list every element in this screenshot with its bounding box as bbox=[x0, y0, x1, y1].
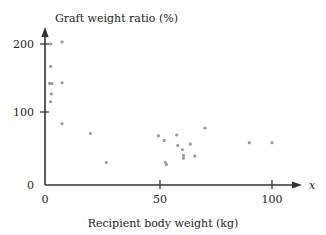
data-point bbox=[50, 82, 53, 85]
data-point bbox=[49, 43, 52, 46]
data-point bbox=[61, 81, 64, 84]
data-point bbox=[165, 163, 168, 166]
data-point bbox=[176, 144, 179, 147]
data-point bbox=[182, 157, 185, 160]
data-point bbox=[182, 154, 185, 157]
data-point bbox=[49, 100, 52, 103]
x-axis-variable-label: x bbox=[309, 179, 316, 192]
plot-canvas: 200 100 0 0 50 100 Graft weight ratio (%… bbox=[0, 0, 326, 235]
data-point bbox=[181, 148, 184, 151]
y-tick-label-100: 100 bbox=[13, 106, 34, 119]
data-point bbox=[50, 93, 53, 96]
scatter-plot-figure: 200 100 0 0 50 100 Graft weight ratio (%… bbox=[0, 0, 326, 235]
data-point bbox=[271, 141, 274, 144]
data-point bbox=[105, 161, 108, 164]
x-tick-label-100: 100 bbox=[262, 193, 283, 206]
y-tick-label-200: 200 bbox=[13, 38, 34, 51]
data-point bbox=[157, 134, 160, 137]
x-tick-label-50: 50 bbox=[153, 193, 167, 206]
data-point bbox=[193, 155, 196, 158]
data-point bbox=[189, 143, 192, 146]
y-tick-label-0: 0 bbox=[27, 179, 34, 192]
data-point bbox=[61, 40, 64, 43]
x-axis-arrowhead bbox=[292, 181, 302, 188]
data-point bbox=[49, 65, 52, 68]
data-point bbox=[248, 141, 251, 144]
data-point bbox=[61, 122, 64, 125]
data-point bbox=[89, 132, 92, 135]
data-point-group bbox=[48, 40, 273, 166]
x-axis-title: Recipient body weight (kg) bbox=[88, 217, 239, 230]
y-axis-title: Graft weight ratio (%) bbox=[55, 12, 178, 25]
x-tick-label-0: 0 bbox=[42, 193, 49, 206]
data-point bbox=[204, 126, 207, 129]
y-axis-arrowhead bbox=[41, 27, 48, 37]
data-point bbox=[175, 133, 178, 136]
data-point bbox=[163, 139, 166, 142]
